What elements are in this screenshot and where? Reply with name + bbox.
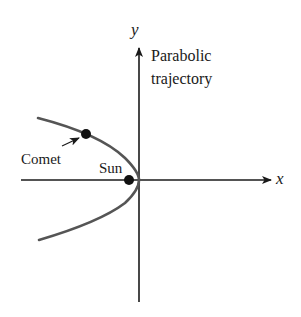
trajectory-label-line1: Parabolic — [151, 47, 211, 64]
comet-dot — [81, 129, 91, 139]
sun-label: Sun — [99, 160, 123, 176]
comet-label: Comet — [21, 151, 62, 167]
parabolic-trajectory-diagram: y x Parabolic trajectory Comet Sun — [0, 0, 301, 317]
comet-pointer-arrow — [62, 138, 79, 146]
x-axis-label: x — [275, 169, 284, 188]
sun-dot — [124, 175, 134, 185]
y-axis-label: y — [129, 20, 139, 39]
trajectory-label-line2: trajectory — [151, 70, 212, 88]
